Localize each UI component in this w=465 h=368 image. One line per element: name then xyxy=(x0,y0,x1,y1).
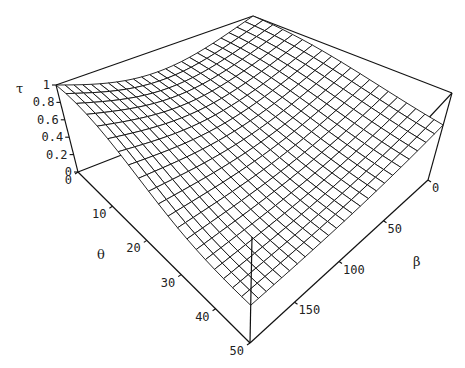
svg-text:20: 20 xyxy=(126,241,140,255)
z-axis-label: τ xyxy=(16,81,23,96)
svg-text:30: 30 xyxy=(161,276,175,290)
svg-text:1: 1 xyxy=(43,78,50,92)
svg-text:50: 50 xyxy=(230,344,244,358)
svg-text:0.4: 0.4 xyxy=(42,130,64,144)
svg-text:150: 150 xyxy=(299,303,321,317)
svg-text:0.2: 0.2 xyxy=(46,148,68,162)
svg-text:10: 10 xyxy=(92,207,106,221)
theta-axis-label: θ xyxy=(97,247,105,262)
svg-text:0.6: 0.6 xyxy=(37,113,59,127)
surface-mesh xyxy=(56,16,443,305)
surface-plot: 00.20.40.60.8101020304050050100150 τ θ β xyxy=(0,0,465,368)
svg-text:40: 40 xyxy=(195,310,209,324)
svg-text:0: 0 xyxy=(65,173,72,187)
plot-canvas: 00.20.40.60.8101020304050050100150 τ θ β xyxy=(0,0,465,368)
svg-text:50: 50 xyxy=(388,222,402,236)
svg-text:0.8: 0.8 xyxy=(33,95,55,109)
beta-axis-label: β xyxy=(413,254,421,269)
svg-text:100: 100 xyxy=(343,263,365,277)
svg-text:0: 0 xyxy=(432,181,439,195)
